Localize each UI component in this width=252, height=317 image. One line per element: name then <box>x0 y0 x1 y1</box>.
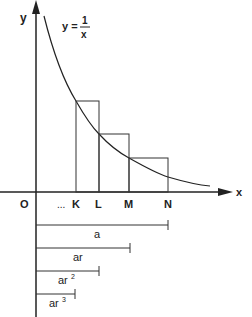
function-lhs: y = <box>62 20 78 32</box>
segment-ar3-label: ar <box>49 297 59 309</box>
function-numerator: 1 <box>82 15 88 26</box>
rect-k-l <box>76 101 99 192</box>
ellipsis-label: ... <box>57 199 65 210</box>
hyperbola-curve <box>44 16 210 186</box>
function-denominator: x <box>81 29 87 40</box>
tick-l-label: L <box>95 198 102 210</box>
segment-ar2-exponent: 2 <box>71 273 75 280</box>
segment-ar3: ar 3 <box>36 289 75 309</box>
function-label: y = 1 x <box>62 15 90 40</box>
segment-ar2-label: ar <box>58 274 68 286</box>
segment-ar2: ar 2 <box>36 266 99 286</box>
y-axis-label: y <box>20 11 27 25</box>
segment-a: a <box>36 220 168 240</box>
y-axis-arrow-icon <box>32 0 40 14</box>
x-axis-arrow-icon <box>218 188 233 196</box>
origin-label: O <box>20 198 29 210</box>
segment-ar3-exponent: 3 <box>62 296 66 303</box>
tick-k-label: K <box>72 198 80 210</box>
segment-a-label: a <box>94 228 101 240</box>
tick-n-label: N <box>164 198 172 210</box>
segment-ar: ar <box>36 243 130 263</box>
geometric-series-diagram: y x O ... K L M N y = 1 x a ar ar 2 ar 3 <box>0 0 252 317</box>
tick-m-label: M <box>124 198 133 210</box>
rect-l-m <box>99 134 129 192</box>
segment-ar-label: ar <box>73 251 83 263</box>
x-axis-label: x <box>236 186 243 198</box>
rectangles <box>76 101 168 192</box>
